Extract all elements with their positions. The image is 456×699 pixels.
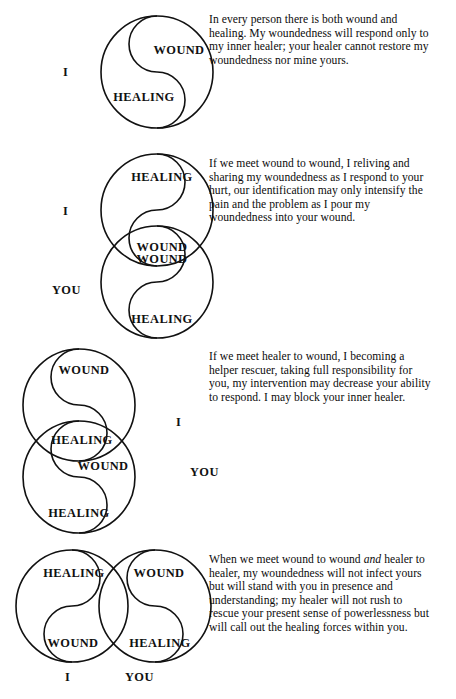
self-circle-wound-label: WOUND: [154, 43, 205, 57]
panel-3-side-label-you: YOU: [190, 465, 219, 480]
document-page: I WOUND HEALING In every person there is…: [0, 0, 456, 699]
panel-2-side-label-i: I: [63, 204, 68, 219]
panel-3: I YOU WOUND HEALING WOUND HEALING If we …: [0, 345, 456, 540]
panel-1: I WOUND HEALING In every person there is…: [0, 0, 456, 150]
you-circle-wound-label: WOUND: [78, 459, 129, 473]
yin-yang-svg-2: HEALING WOUND WOUND HEALING: [100, 152, 218, 342]
self-circle-s-curve: [129, 16, 185, 128]
panel-3-paragraph: If we meet healer to wound, I becoming a…: [209, 350, 434, 404]
i-circle-healing-label: HEALING: [51, 433, 112, 447]
you-circle-healing-label: HEALING: [48, 506, 109, 520]
you-circle-healing-label: HEALING: [131, 312, 192, 326]
self-circle-healing-label: HEALING: [113, 90, 174, 104]
panel-4-side-label-you: YOU: [125, 670, 154, 685]
panel-3-side-label-i: I: [176, 415, 181, 430]
i-circle-wound-label: WOUND: [59, 363, 110, 377]
you-circle-wound-label: WOUND: [137, 252, 188, 266]
i-circle-healing-label: HEALING: [131, 170, 192, 184]
yin-yang-svg-1: WOUND HEALING: [100, 14, 218, 134]
yin-yang-svg-3: WOUND HEALING WOUND HEALING: [22, 347, 152, 539]
you-circle-wound-label: WOUND: [134, 566, 185, 580]
i-circle-wound-label: WOUND: [48, 636, 99, 650]
i-circle-healing-label: HEALING: [43, 566, 104, 580]
panel-1-side-label-i: I: [63, 65, 68, 80]
panel-1-paragraph: In every person there is both wound and …: [209, 13, 434, 67]
panel-2: I YOU HEALING WOUND WOUND HEALING If we …: [0, 150, 456, 345]
panel-4-diagram: HEALING WOUND WOUND HEALING: [14, 548, 214, 668]
panel-4-side-label-i: I: [65, 670, 70, 685]
you-circle-healing-label: HEALING: [129, 636, 190, 650]
panel-4-paragraph-emphasis: and: [364, 553, 382, 566]
panel-4-paragraph-before: When we meet wound to wound: [209, 553, 364, 566]
panel-2-paragraph: If we meet wound to wound, I reliving an…: [209, 157, 434, 225]
panel-4: I YOU HEALING WOUND WOUND HEALING When w…: [0, 540, 456, 699]
panel-4-paragraph: When we meet wound to wound and healer t…: [209, 553, 434, 635]
panel-2-side-label-you: YOU: [52, 283, 81, 298]
panel-1-diagram: WOUND HEALING: [100, 14, 218, 134]
panel-3-diagram: WOUND HEALING WOUND HEALING: [22, 347, 152, 539]
yin-yang-svg-4: HEALING WOUND WOUND HEALING: [14, 548, 214, 668]
panel-2-diagram: HEALING WOUND WOUND HEALING: [100, 152, 218, 342]
